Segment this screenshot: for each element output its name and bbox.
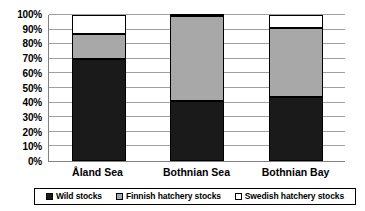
- bar-segment[interactable]: [72, 34, 126, 59]
- legend-item-label: Finnish hatchery stocks: [126, 192, 221, 201]
- bar-stack[interactable]: [170, 15, 224, 161]
- y-axis-tick-label: 30%: [23, 113, 42, 123]
- chart-legend: Wild stocksFinnish hatchery stocksSwedis…: [34, 188, 356, 205]
- bar-segment[interactable]: [72, 15, 126, 34]
- legend-swatch-icon: [116, 193, 123, 200]
- y-axis-tick-label: 50%: [23, 84, 42, 94]
- y-axis-tick-label: 40%: [23, 98, 42, 108]
- y-axis-tick-label: 80%: [23, 39, 42, 49]
- bar-group: [269, 15, 323, 161]
- legend-item[interactable]: Finnish hatchery stocks: [116, 192, 221, 201]
- bar-segment[interactable]: [269, 15, 323, 28]
- bar-stack[interactable]: [72, 15, 126, 161]
- bar-segment[interactable]: [170, 101, 224, 161]
- bar-segment[interactable]: [269, 97, 323, 161]
- bar-stack[interactable]: [269, 15, 323, 161]
- legend-swatch-icon: [46, 193, 53, 200]
- y-axis-tick-label: 60%: [23, 69, 42, 79]
- y-axis-tick-label: 100%: [17, 10, 42, 20]
- bar-group: [170, 15, 224, 161]
- y-axis-tick-label: 10%: [23, 142, 42, 152]
- legend-item[interactable]: Swedish hatchery stocks: [235, 192, 344, 201]
- y-axis-tick-label: 90%: [23, 25, 42, 35]
- x-axis: Åland SeaBothnian SeaBothnian Bay: [48, 165, 345, 181]
- bar-segment[interactable]: [170, 16, 224, 101]
- bar-segment[interactable]: [72, 59, 126, 161]
- bar-segment[interactable]: [170, 14, 224, 16]
- legend-item[interactable]: Wild stocks: [46, 192, 102, 201]
- x-axis-tick-label: Bothnian Sea: [147, 165, 246, 179]
- legend-item-label: Swedish hatchery stocks: [245, 192, 344, 201]
- y-axis-tick-label: 0%: [28, 157, 42, 167]
- x-axis-tick-label: Bothnian Bay: [246, 165, 345, 179]
- bar-segment[interactable]: [269, 28, 323, 97]
- y-axis-tick-label: 70%: [23, 54, 42, 64]
- y-axis-tick-label: 20%: [23, 128, 42, 138]
- legend-swatch-icon: [235, 193, 242, 200]
- bar-group: [72, 15, 126, 161]
- y-axis: 0%10%20%30%40%50%60%70%80%90%100%: [0, 15, 45, 162]
- x-axis-tick-label: Åland Sea: [48, 165, 147, 179]
- legend-item-label: Wild stocks: [56, 192, 102, 201]
- stacked-bar-chart: 0%10%20%30%40%50%60%70%80%90%100% Åland …: [0, 0, 365, 211]
- plot-area: [48, 15, 345, 162]
